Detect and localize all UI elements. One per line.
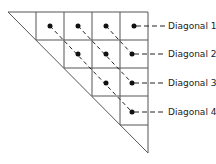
label-diagonal-4: Diagonal 4 — [168, 107, 216, 117]
diagonal-diagram: Diagonal 1 Diagonal 2 Diagonal 3 Diagona… — [0, 0, 216, 164]
label-diagonal-1: Diagonal 1 — [168, 21, 216, 31]
label-diagonal-2: Diagonal 2 — [168, 49, 216, 59]
label-diagonal-3: Diagonal 3 — [168, 78, 216, 88]
grid-lines — [8, 12, 148, 153]
label-leaders — [134, 26, 166, 112]
